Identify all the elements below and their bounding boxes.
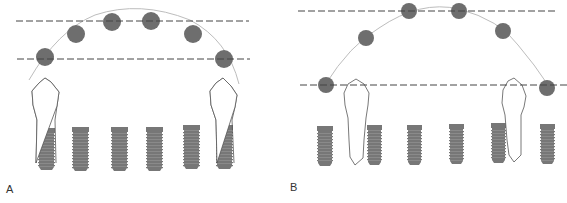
implant-head: [407, 125, 422, 130]
implant-position-marker: [495, 23, 511, 39]
thread-notch: [367, 138, 368, 139]
thread-notch: [463, 140, 464, 141]
thread-notch: [72, 134, 73, 135]
thread-notch: [72, 140, 73, 141]
thread-notch: [491, 139, 492, 140]
implant-body: [450, 129, 463, 161]
thread-notch: [505, 142, 506, 143]
thread-notch: [317, 151, 318, 152]
thread-notch: [127, 152, 128, 153]
thread-notch: [540, 134, 541, 135]
thread-notch: [491, 130, 492, 131]
thread-notch: [463, 134, 464, 135]
implant: [449, 124, 464, 164]
thread-notch: [54, 147, 55, 148]
thread-notch: [88, 140, 89, 141]
thread-notch: [146, 149, 147, 150]
thread-notch: [183, 153, 184, 154]
thread-notch: [540, 149, 541, 150]
thread-notch: [367, 159, 368, 160]
thread-notch: [162, 140, 163, 141]
thread-notch: [146, 155, 147, 156]
thread-notch: [183, 135, 184, 136]
implant-position-marker: [358, 30, 374, 46]
thread-notch: [421, 159, 422, 160]
thread-notch: [421, 135, 422, 136]
thread-notch: [367, 132, 368, 133]
thread-notch: [72, 152, 73, 153]
implant-head: [111, 127, 128, 132]
thread-notch: [317, 145, 318, 146]
thread-notch: [463, 158, 464, 159]
thread-notch: [381, 141, 382, 142]
thread-notch: [491, 148, 492, 149]
thread-notch: [505, 133, 506, 134]
thread-notch: [332, 148, 333, 149]
thread-notch: [367, 150, 368, 151]
thread-notch: [111, 152, 112, 153]
implant-apex: [112, 168, 127, 171]
implant: [111, 127, 128, 171]
thread-notch: [232, 153, 233, 154]
implant-position-marker: [103, 13, 121, 31]
implant-head: [317, 126, 333, 131]
thread-notch: [332, 160, 333, 161]
thread-notch: [505, 154, 506, 155]
thread-notch: [381, 150, 382, 151]
thread-notch: [491, 151, 492, 152]
thread-notch: [491, 154, 492, 155]
thread-notch: [88, 152, 89, 153]
thread-notch: [146, 143, 147, 144]
thread-notch: [317, 157, 318, 158]
thread-notch: [232, 162, 233, 163]
thread-notch: [199, 138, 200, 139]
thread-notch: [317, 136, 318, 137]
thread-notch: [381, 144, 382, 145]
thread-notch: [232, 159, 233, 160]
thread-notch: [381, 147, 382, 148]
thread-notch: [554, 158, 555, 159]
thread-notch: [72, 143, 73, 144]
thread-notch: [111, 164, 112, 165]
panel-a: [16, 9, 250, 171]
thread-notch: [407, 135, 408, 136]
thread-notch: [463, 146, 464, 147]
implant: [540, 124, 555, 164]
thread-notch: [505, 157, 506, 158]
thread-notch: [72, 149, 73, 150]
thread-notch: [463, 155, 464, 156]
thread-notch: [127, 155, 128, 156]
thread-notch: [146, 158, 147, 159]
thread-notch: [54, 153, 55, 154]
implant-body: [112, 132, 127, 168]
thread-notch: [183, 132, 184, 133]
thread-notch: [449, 140, 450, 141]
arch-curve: [29, 9, 239, 84]
thread-notch: [88, 137, 89, 138]
thread-notch: [421, 132, 422, 133]
tooth: [502, 78, 526, 162]
thread-notch: [491, 145, 492, 146]
thread-notch: [332, 133, 333, 134]
implant-apex: [408, 162, 421, 165]
thread-notch: [54, 141, 55, 142]
thread-notch: [407, 159, 408, 160]
implant-apex: [318, 163, 332, 166]
thread-notch: [162, 164, 163, 165]
thread-notch: [199, 144, 200, 145]
thread-notch: [407, 132, 408, 133]
thread-notch: [111, 155, 112, 156]
implant-body: [318, 131, 332, 163]
implant-body: [73, 132, 88, 168]
thread-notch: [232, 156, 233, 157]
thread-notch: [72, 164, 73, 165]
thread-notch: [317, 148, 318, 149]
thread-notch: [491, 136, 492, 137]
implant-apex: [147, 168, 162, 171]
thread-notch: [183, 144, 184, 145]
thread-notch: [72, 161, 73, 162]
thread-notch: [88, 134, 89, 135]
thread-notch: [407, 156, 408, 157]
tooth-outline: [344, 79, 369, 165]
thread-notch: [505, 148, 506, 149]
